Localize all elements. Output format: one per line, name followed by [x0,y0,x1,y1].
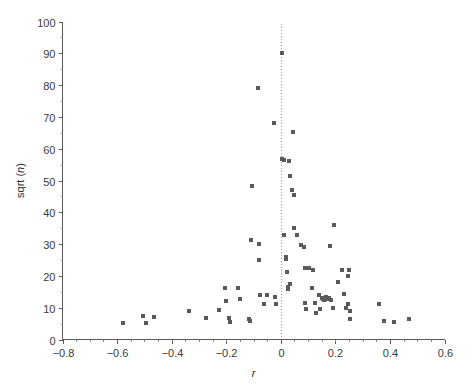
data-point-marker [141,314,145,318]
data-point-marker [303,301,307,305]
data-point-marker [248,319,252,323]
data-point-marker [287,159,291,163]
scatter-plot-canvas: 0102030405060708090100 −0.8−0.6−0.4−0.20… [0,0,475,386]
data-point-marker [329,298,333,302]
data-point-marker [382,319,386,323]
data-point-marker [257,258,261,262]
data-point-marker [318,307,322,311]
x-axis-group: −0.8−0.6−0.4−0.200.20.40.6 [53,340,454,359]
data-point-marker [303,266,307,270]
data-point-marker [282,233,286,237]
y-axis-tick-label: 90 [43,48,55,60]
data-point-marker [258,293,262,297]
data-point-marker [238,297,242,301]
y-axis-tick-label: 30 [43,239,55,251]
data-point-marker [340,268,344,272]
data-point-marker [331,306,335,310]
y-axis-tick-label: 100 [37,17,55,29]
data-point-marker [256,86,260,90]
x-axis-tick-label: −0.2 [216,347,238,359]
x-axis-title: r [252,367,257,379]
data-point-group [121,51,412,326]
data-point-marker [204,316,208,320]
data-point-marker [346,302,350,306]
y-axis-tick-label: 70 [43,112,55,124]
y-axis-title: sqrt (n) [14,163,26,198]
x-axis-tick-label: 0.4 [383,347,398,359]
data-point-marker [311,268,315,272]
data-point-marker [348,317,352,321]
data-point-marker [187,309,191,313]
y-axis-tick-label: 60 [43,144,55,156]
data-point-marker [249,238,253,242]
data-point-marker [284,257,288,261]
data-point-marker [236,286,240,290]
data-point-marker [288,174,292,178]
data-point-marker [347,268,351,272]
data-point-marker [314,311,318,315]
data-point-marker [286,287,290,291]
data-point-marker [346,274,350,278]
data-point-marker [292,226,296,230]
data-point-marker [257,242,261,246]
data-point-marker [262,302,266,306]
data-point-marker [392,320,396,324]
data-point-marker [152,315,156,319]
y-axis-tick-label: 80 [43,80,55,92]
y-axis-title-suffix: ) [14,163,26,167]
data-point-marker [282,158,286,162]
data-point-marker [217,308,221,312]
data-point-marker [144,321,148,325]
data-point-marker [304,307,308,311]
x-axis-tick-label: 0 [278,347,284,359]
x-axis-tick-label: −0.8 [53,347,75,359]
data-point-marker [342,292,346,296]
data-point-marker [265,293,269,297]
data-point-marker [307,266,311,270]
y-axis-tick-label: 10 [43,303,55,315]
data-point-marker [377,302,381,306]
data-point-marker [291,130,295,134]
data-point-marker [224,299,228,303]
x-axis-tick-label: −0.4 [162,347,184,359]
data-point-marker [273,295,277,299]
data-point-marker [310,286,314,290]
data-point-marker [336,280,340,284]
data-point-marker [288,282,292,286]
y-axis-group: 0102030405060708090100 [37,17,62,347]
data-point-marker [227,316,231,320]
data-point-marker [328,244,332,248]
data-point-marker [121,321,125,325]
y-axis-title-prefix: sqrt ( [14,173,26,198]
data-point-marker [223,286,227,290]
funnel-plot-figure: 0102030405060708090100 −0.8−0.6−0.4−0.20… [0,0,475,386]
data-point-marker [302,245,306,249]
data-point-marker [250,184,254,188]
y-axis-tick-label: 50 [43,176,55,188]
x-axis-tick-label: 0.2 [328,347,343,359]
x-axis-tick-label: 0.6 [438,347,453,359]
data-point-marker [407,317,411,321]
data-point-marker [228,320,232,324]
data-point-marker [332,223,336,227]
data-point-marker [272,121,276,125]
y-axis-tick-label: 20 [43,271,55,283]
data-point-marker [280,51,284,55]
y-axis-tick-label: 0 [49,335,55,347]
data-point-marker [292,193,296,197]
y-axis-tick-label: 40 [43,207,55,219]
data-point-marker [295,233,299,237]
data-point-marker [348,309,352,313]
data-point-marker [313,301,317,305]
data-point-marker [290,188,294,192]
data-point-marker [285,270,289,274]
data-point-marker [274,302,278,306]
x-axis-tick-label: −0.6 [107,347,129,359]
